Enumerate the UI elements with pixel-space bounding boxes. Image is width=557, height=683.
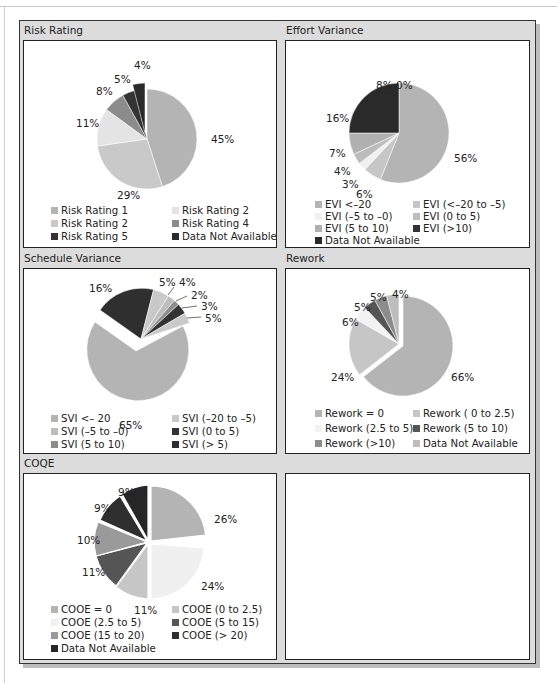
swatch-icon <box>51 619 58 626</box>
swatch-icon <box>51 645 58 652</box>
legend-item: Data Not Available <box>172 230 277 243</box>
swatch-icon <box>315 237 322 244</box>
legend-item: Risk Rating 2 <box>51 217 128 230</box>
swatch-icon <box>172 220 179 227</box>
swatch-icon <box>51 441 58 448</box>
chart-area: 26% 24% 11% 11% 10% 9% 9% COOE = 0 COOE … <box>23 473 277 660</box>
swatch-icon <box>413 410 420 417</box>
legend-item: SVI (5 to 10) <box>51 438 125 451</box>
value-label: 5% <box>114 73 131 85</box>
value-label: 6% <box>342 316 359 328</box>
legend: SVI <– 20 SVI (–20 to –5) SVI (–5 to –0)… <box>51 412 273 452</box>
panel-risk-rating: Risk Rating <box>20 21 280 251</box>
value-label: 26% <box>214 513 237 525</box>
left-divider <box>4 7 5 683</box>
swatch-icon <box>51 207 58 214</box>
swatch-icon <box>172 619 179 626</box>
swatch-icon <box>172 606 179 613</box>
legend: Risk Rating 1 Risk Rating 2 Risk Rating … <box>51 204 273 246</box>
swatch-icon <box>315 440 322 447</box>
panel-empty <box>282 456 534 661</box>
panel-title: Effort Variance <box>286 24 363 36</box>
swatch-icon <box>413 440 420 447</box>
panel-title: Risk Rating <box>24 24 83 36</box>
value-label: 4% <box>392 288 409 300</box>
value-label: 8% <box>376 79 393 91</box>
panel-title: COQE <box>24 457 55 469</box>
value-label: 9% <box>118 486 135 498</box>
swatch-icon <box>51 415 58 422</box>
swatch-icon <box>315 213 322 220</box>
swatch-icon <box>51 632 58 639</box>
panel-effort-variance: Effort Variance 56% 6% <box>282 21 534 251</box>
legend-item: SVI (–20 to –5) <box>172 412 256 425</box>
value-label: 11% <box>82 566 105 578</box>
value-label: 45% <box>211 133 234 145</box>
legend-item: COOE = 0 <box>51 603 112 616</box>
swatch-icon <box>51 220 58 227</box>
legend-item: Data Not Available <box>51 642 156 655</box>
legend-item: Rework ( 0 to 2.5) <box>413 407 514 420</box>
swatch-icon <box>51 606 58 613</box>
legend-item: SVI <– 20 <box>51 412 111 425</box>
swatch-icon <box>51 428 58 435</box>
value-label: 3% <box>201 300 218 312</box>
legend: EVI <–20 EVI (<–20 to –5) EVI (–5 to –0)… <box>315 198 527 250</box>
swatch-icon <box>413 225 420 232</box>
value-label: 4% <box>179 276 196 288</box>
value-label: 24% <box>331 371 354 383</box>
swatch-icon <box>172 428 179 435</box>
top-divider <box>0 6 557 7</box>
value-label: 3% <box>342 178 359 190</box>
legend-item: Rework (2.5 to 5) <box>315 422 413 435</box>
legend-item: SVI (> 5) <box>172 438 228 451</box>
legend-item: COOE (0 to 2.5) <box>172 603 262 616</box>
swatch-icon <box>172 632 179 639</box>
value-label: 24% <box>201 580 224 592</box>
legend-item: COOE (5 to 15) <box>172 616 259 629</box>
value-label: 5% <box>370 291 387 303</box>
chart-area: 16% 5% 4% 2% 3% 5% 65% SVI <– 20 SVI (–2… <box>23 268 277 454</box>
value-label: 5% <box>354 301 371 313</box>
dashboard-frame: Risk Rating <box>19 20 536 664</box>
value-label: 5% <box>205 312 222 324</box>
legend-item: COOE (2.5 to 5) <box>51 616 141 629</box>
panel-schedule-variance: Schedule Variance <box>20 251 280 456</box>
swatch-icon <box>315 201 322 208</box>
value-label: 11% <box>76 117 99 129</box>
value-label: 7% <box>329 147 346 159</box>
value-label: 9% <box>94 502 111 514</box>
swatch-icon <box>315 410 322 417</box>
swatch-icon <box>315 225 322 232</box>
legend-item: Risk Rating 5 <box>51 230 128 243</box>
legend: Rework = 0 Rework ( 0 to 2.5) Rework (2.… <box>315 407 527 451</box>
value-label: 10% <box>77 534 100 546</box>
legend-item: COOE (> 20) <box>172 629 248 642</box>
swatch-icon <box>413 213 420 220</box>
value-label: 16% <box>326 112 349 124</box>
swatch-icon <box>413 425 420 432</box>
value-label: 29% <box>117 189 140 201</box>
legend-item: COOE (15 to 20) <box>51 629 144 642</box>
value-label: 4% <box>334 165 351 177</box>
value-label: 56% <box>454 152 477 164</box>
swatch-icon <box>172 233 179 240</box>
value-label: 4% <box>134 59 151 71</box>
empty-chart-area <box>285 473 530 660</box>
value-label: 66% <box>451 371 474 383</box>
swatch-icon <box>172 207 179 214</box>
panel-title: Schedule Variance <box>24 252 121 264</box>
value-label: 8% <box>96 85 113 97</box>
chart-area: 66% 24% 6% 5% 5% 4% Rework = 0 Rework ( … <box>285 268 530 454</box>
swatch-icon <box>413 201 420 208</box>
legend-item: SVI (–5 to –0) <box>51 425 128 438</box>
panel-title: Rework <box>286 252 325 264</box>
value-label: 16% <box>89 282 112 294</box>
legend-item: EVI (>10) <box>413 222 472 235</box>
legend-item: Risk Rating 2 <box>172 204 249 217</box>
legend-item: Rework = 0 <box>315 407 384 420</box>
swatch-icon <box>172 441 179 448</box>
legend: COOE = 0 COOE (0 to 2.5) COOE (2.5 to 5)… <box>51 603 273 658</box>
swatch-icon <box>51 233 58 240</box>
panel-coqe: COQE 26% <box>20 456 280 661</box>
